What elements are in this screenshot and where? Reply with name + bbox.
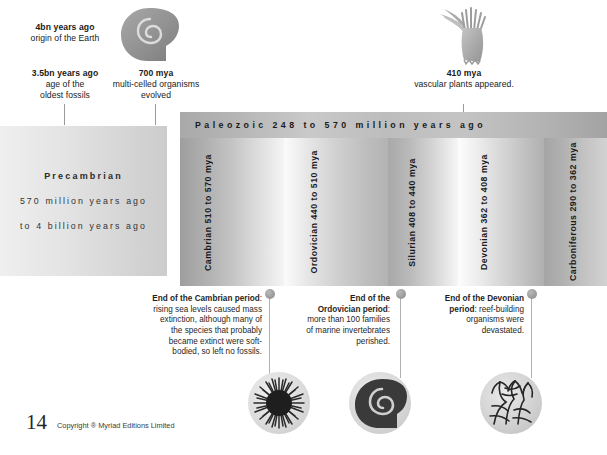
coral-reef-fossil-icon (480, 372, 542, 434)
precambrian-title: Precambrian (44, 171, 123, 181)
callout-end-cambrian: End of the Cambrian period: rising sea l… (150, 294, 262, 358)
pin-stem (269, 298, 270, 378)
event-detail: origin of the Earth (6, 33, 124, 44)
callout-end-devonian: End of the Devonian period: reef-buildin… (438, 294, 524, 337)
copyright-notice: Copyright ® Myriad Editions Limited (57, 421, 175, 430)
event-detail: multi-celled organismsevolved (96, 79, 216, 101)
callout-text: End of the Cambrian period: rising sea l… (150, 294, 262, 358)
callout-text: End of the Ordovician period: more than … (306, 294, 390, 347)
pin-dot (396, 289, 406, 299)
precambrian-range-line1: 570 million years ago (20, 196, 147, 206)
ammonite-spiral-icon (119, 6, 181, 64)
period-columns: Cambrian 510 to 570 mya Ordovician 440 t… (180, 138, 607, 286)
period-column-devonian: Devonian 362 to 408 mya (458, 138, 544, 286)
timeline-page: 4bn years ago origin of the Earth 3.5bn … (0, 0, 607, 455)
leader-line-multicelled-organisms (155, 104, 156, 125)
period-column-silurian: Silurian 408 to 440 mya (388, 138, 458, 286)
precambrian-era-block: Precambrian 570 million years ago to 4 b… (0, 126, 167, 276)
period-column-ordovician: Ordovician 440 to 510 mya (284, 138, 388, 286)
pin-dot (527, 289, 537, 299)
pin-stem (400, 298, 401, 378)
event-multicelled-organisms: 700 mya multi-celled organismsevolved (96, 68, 216, 101)
callout-title: End of the Cambrian period (152, 294, 259, 303)
event-headline: 4bn years ago (6, 22, 124, 33)
ammonite-fossil-icon (349, 372, 411, 434)
period-label-carboniferous: Carboniferous 290 to 362 mya (568, 142, 578, 281)
vascular-plant-icon (438, 4, 494, 66)
callout-text: End of the Devonian period: reef-buildin… (438, 294, 524, 337)
event-detail: vascular plants appeared. (400, 79, 528, 90)
period-label-cambrian: Cambrian 510 to 570 mya (203, 154, 213, 271)
page-number: 14 (26, 410, 47, 435)
period-label-silurian: Silurian 408 to 440 mya (407, 158, 417, 267)
leader-line-oldest-fossils (64, 104, 65, 125)
paleozoic-era-label: Paleozoic 248 to 570 million years ago (180, 120, 486, 130)
callout-title: End of the Ordovician period (318, 294, 390, 314)
period-column-cambrian: Cambrian 510 to 570 mya (180, 138, 284, 286)
event-headline: 700 mya (96, 68, 216, 79)
sea-urchin-fossil-icon (248, 372, 310, 434)
period-label-ordovician: Ordovician 440 to 510 mya (309, 150, 319, 273)
event-vascular-plants: 410 mya vascular plants appeared. (400, 68, 528, 90)
event-headline: 410 mya (400, 68, 528, 79)
pin-dot (265, 289, 275, 299)
callout-body: : reef-building organisms were devastate… (466, 305, 524, 335)
paleozoic-era-header: Paleozoic 248 to 570 million years ago (180, 112, 607, 138)
event-origin-of-earth: 4bn years ago origin of the Earth (6, 22, 124, 44)
pin-stem (531, 298, 532, 378)
period-column-carboniferous: Carboniferous 290 to 362 mya (544, 138, 607, 286)
callout-body: : rising sea levels caused mass extincti… (153, 294, 262, 356)
callout-end-ordovician: End of the Ordovician period: more than … (306, 294, 390, 347)
period-label-devonian: Devonian 362 to 408 mya (479, 154, 489, 270)
precambrian-range-line2: to 4 billion years ago (20, 221, 147, 231)
